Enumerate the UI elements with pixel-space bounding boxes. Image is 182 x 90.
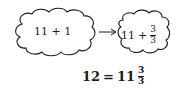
result-equation: 12 = 11 3 3 <box>82 66 144 86</box>
plus-operator: + <box>138 29 147 42</box>
right-whole-number: 11 <box>121 29 135 42</box>
left-cloud-expression: 11 + 1 <box>34 25 71 38</box>
fraction-denominator: 3 <box>138 77 144 86</box>
arrow-right-icon <box>99 29 116 35</box>
fraction-numerator: 3 <box>150 25 156 34</box>
equation-whole: 11 <box>117 69 135 84</box>
equation-fraction: 3 3 <box>138 66 144 86</box>
right-fraction: 3 3 <box>150 25 156 45</box>
equation-lhs: 12 <box>82 69 100 84</box>
fraction-numerator: 3 <box>138 66 144 75</box>
equals-sign: = <box>103 69 114 84</box>
right-cloud-expression: 11 + 3 3 <box>121 25 156 45</box>
fraction-denominator: 3 <box>150 36 156 45</box>
